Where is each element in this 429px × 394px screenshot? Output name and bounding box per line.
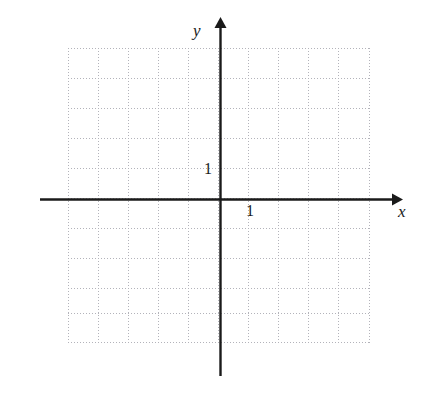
x-axis-tick-label-1: 1 — [246, 203, 254, 219]
graph-figure: y x 1 1 — [0, 0, 429, 394]
x-axis-label: x — [398, 203, 406, 220]
y-axis-label: y — [193, 22, 201, 39]
axis-layer — [0, 0, 429, 394]
y-axis-arrowhead — [215, 17, 227, 28]
y-axis-tick-label-1: 1 — [204, 161, 212, 177]
